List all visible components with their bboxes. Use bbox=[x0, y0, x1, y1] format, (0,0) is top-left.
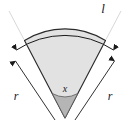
arc-length-label: l bbox=[101, 1, 105, 16]
radius-left-label: r bbox=[14, 89, 19, 103]
sector-diagram-svg: l r r x bbox=[0, 0, 130, 120]
guide-line-left bbox=[9, 11, 24, 40]
guide-line-right bbox=[106, 11, 121, 40]
central-angle-wedge bbox=[52, 94, 78, 119]
circular-sector-figure: l r r x bbox=[0, 0, 130, 120]
radius-right-label: r bbox=[108, 89, 113, 103]
central-angle-label: x bbox=[62, 83, 68, 94]
